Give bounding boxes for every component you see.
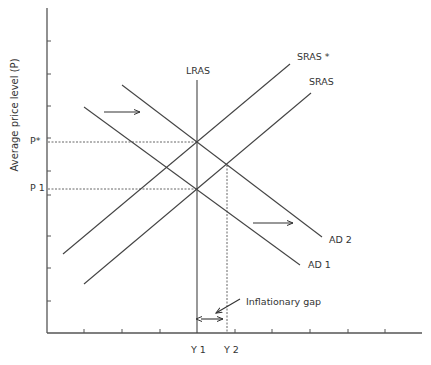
y-axis-label: Average price level (P) [9, 58, 20, 171]
ad1-curve [84, 107, 300, 265]
inflationary-gap-label: Inflationary gap [246, 296, 321, 307]
ad2-curve [122, 85, 322, 237]
y1-label: Y 1 [190, 344, 206, 355]
sras-star-curve [63, 64, 290, 254]
ad2-label: AD 2 [329, 234, 352, 245]
sras-star-label: SRAS * [297, 51, 330, 62]
inflationary-gap-pointer [216, 299, 240, 313]
lras-label: LRAS [186, 65, 210, 76]
p1-label: P 1 [30, 182, 45, 193]
y2-label: Y 2 [223, 344, 239, 355]
ad1-label: AD 1 [308, 259, 331, 270]
ad-as-diagram: Average price level (P) [0, 0, 431, 365]
p-star-label: P* [30, 135, 41, 146]
sras-label: SRAS [309, 76, 334, 87]
